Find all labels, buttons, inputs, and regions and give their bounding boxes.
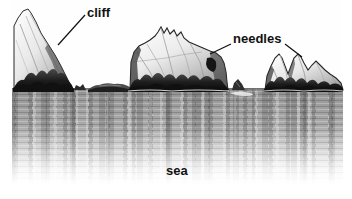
needles-leader-line-right	[285, 44, 302, 57]
label-needles: needles	[233, 32, 281, 45]
label-sea: sea	[166, 164, 188, 177]
needles-leader-line-left	[210, 44, 231, 54]
label-cliff: cliff	[87, 6, 110, 19]
cliff-leader-line	[58, 15, 85, 45]
coastal-landform-diagram: cliff needles sea	[0, 0, 352, 199]
